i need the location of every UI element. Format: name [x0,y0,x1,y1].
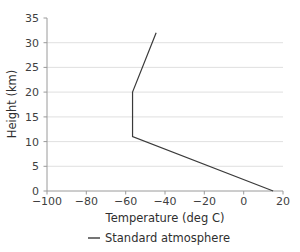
gridlines [47,43,283,167]
y-tick-label-35: 35 [25,12,39,25]
y-tick-labels: 35 30 25 20 15 10 5 0 [25,12,39,198]
temperature-height-line-chart: 35 30 25 20 15 10 5 0 −100 −80 −60 −40 −… [0,0,300,252]
y-tick-label-15: 15 [25,111,39,124]
x-tick-marks [47,191,283,195]
x-tick-label-neg60: −60 [114,195,137,208]
x-axis-title: Temperature (deg C) [105,211,225,225]
x-tick-labels: −100 −80 −60 −40 −20 0 20 [32,195,290,208]
x-tick-label-neg80: −80 [75,195,98,208]
chart-figure: 35 30 25 20 15 10 5 0 −100 −80 −60 −40 −… [0,0,300,252]
legend-label-standard-atmosphere: Standard atmosphere [105,231,230,245]
axes [47,18,283,191]
y-tick-marks [44,18,48,191]
y-tick-label-20: 20 [25,86,39,99]
y-tick-label-25: 25 [25,61,39,74]
x-tick-label-neg100: −100 [32,195,62,208]
legend: Standard atmosphere [88,231,230,245]
x-tick-label-neg40: −40 [153,195,176,208]
x-tick-label-neg20: −20 [193,195,216,208]
x-tick-label-0: 0 [240,195,247,208]
x-tick-label-20: 20 [276,195,290,208]
y-axis-title: Height (km) [5,70,19,139]
y-tick-label-5: 5 [32,160,39,173]
y-tick-label-10: 10 [25,136,39,149]
series-standard-atmosphere [133,33,274,191]
y-tick-label-30: 30 [25,37,39,50]
